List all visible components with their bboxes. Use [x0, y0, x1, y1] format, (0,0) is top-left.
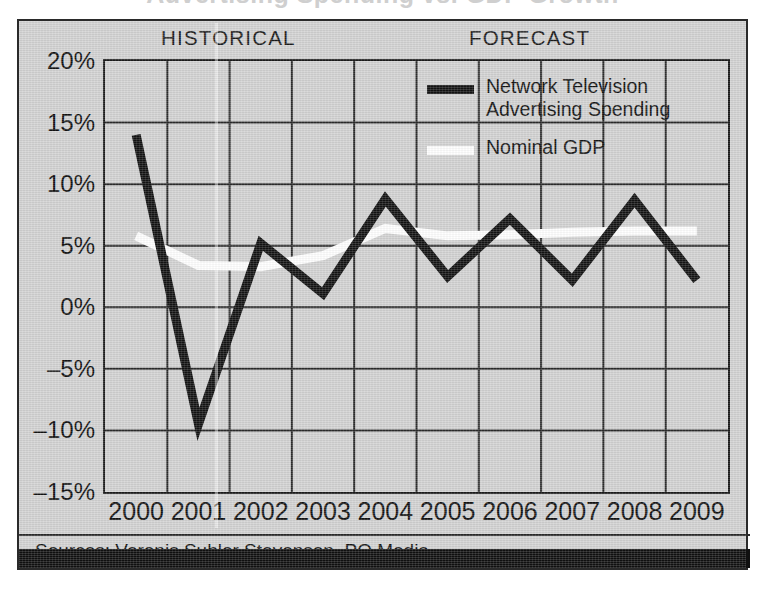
chart-panel: HISTORICAL FORECAST 20%15%10%5%0%–5%–10%…	[17, 19, 748, 570]
x-tick-label: 2007	[544, 497, 600, 526]
plot-inner	[105, 61, 728, 492]
bottom-black-bar	[19, 549, 750, 568]
y-tick-label: –15%	[34, 478, 95, 506]
x-tick-label: 2004	[358, 497, 414, 526]
x-tick-label: 2003	[295, 497, 351, 526]
x-tick-label: 2006	[482, 497, 538, 526]
x-tick-label: 2009	[669, 497, 725, 526]
y-tick-label: –10%	[34, 416, 95, 444]
legend-item-nominal-gdp: Nominal GDP	[427, 136, 605, 159]
x-tick-label: 2005	[420, 497, 476, 526]
chart-svg	[105, 61, 728, 492]
legend-swatch-nominal-gdp	[427, 146, 474, 155]
forecast-section-label: FORECAST	[469, 26, 590, 50]
x-tick-label: 2001	[171, 497, 227, 526]
legend-item-network-television: Network Television Advertising Spending	[427, 75, 670, 121]
y-axis-tick-labels: 20%15%10%5%0%–5%–10%–15%	[19, 59, 101, 494]
section-headers: HISTORICAL FORECAST	[19, 26, 750, 56]
cropped-title-sliver: Advertising Spending vs. GDP Growth	[0, 0, 765, 18]
x-tick-label: 2000	[108, 497, 164, 526]
y-tick-label: 20%	[47, 47, 95, 75]
legend-swatch-network-television	[427, 85, 474, 94]
y-tick-label: 0%	[60, 293, 95, 321]
source-divider-rule	[19, 534, 750, 536]
historical-section-label: HISTORICAL	[161, 26, 296, 50]
legend-label-nominal-gdp: Nominal GDP	[486, 136, 605, 159]
vertical-gridlines	[167, 61, 665, 492]
y-tick-label: 10%	[47, 170, 95, 198]
plot-area	[103, 59, 730, 494]
x-tick-label: 2002	[233, 497, 289, 526]
x-tick-label: 2008	[607, 497, 663, 526]
cropped-title-text: Advertising Spending vs. GDP Growth	[0, 0, 765, 9]
y-tick-label: 5%	[60, 232, 95, 260]
x-axis-tick-labels: 2000200120022003200420052006200720082009	[103, 497, 730, 531]
legend-label-network-television: Network Television Advertising Spending	[486, 75, 670, 121]
y-tick-label: –5%	[47, 355, 95, 383]
y-tick-label: 15%	[47, 109, 95, 137]
